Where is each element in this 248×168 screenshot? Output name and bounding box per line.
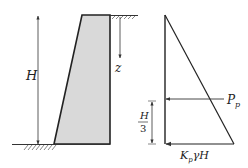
- third-height-dimension: [148, 101, 156, 144]
- base-ground-surface: [12, 145, 110, 151]
- retaining-wall: [54, 15, 110, 144]
- pressure-distribution-triangle: [165, 15, 234, 144]
- base-pressure-label: KpγH: [179, 149, 209, 164]
- resultant-label-sub: p: [235, 100, 240, 109]
- resultant-label: Pp: [226, 93, 240, 109]
- diagram-canvas: H z Pp H 3 KpγH: [0, 0, 248, 168]
- third-height-numerator: H: [139, 110, 149, 121]
- height-label: H: [25, 68, 38, 83]
- third-height-denominator: 3: [140, 123, 146, 134]
- depth-label: z: [114, 61, 122, 75]
- top-ground-surface: [110, 16, 138, 20]
- base-pressure-rest: γH: [193, 149, 210, 162]
